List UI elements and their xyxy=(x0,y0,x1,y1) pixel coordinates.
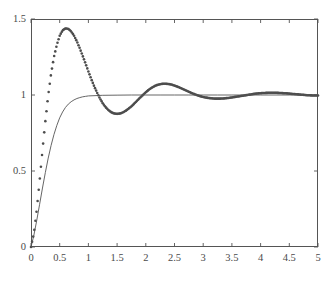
x-axis-tick-label: 4.5 xyxy=(283,253,296,264)
x-axis-tick-label: 0.5 xyxy=(53,253,66,264)
series-marker xyxy=(94,87,97,90)
series-marker xyxy=(77,44,80,47)
series-marker xyxy=(41,154,44,157)
series-marker xyxy=(317,94,320,97)
x-axis-tick-label: 5 xyxy=(315,253,320,264)
series-marker xyxy=(55,45,58,48)
series-marker xyxy=(51,67,54,70)
series-marker xyxy=(95,89,98,92)
axes-frame xyxy=(32,20,318,247)
series-marker xyxy=(80,52,83,55)
y-axis-tick-label: 0 xyxy=(21,242,26,253)
y-axis-tick-label: 1 xyxy=(21,90,26,101)
series-marker xyxy=(92,82,95,85)
series-marker xyxy=(46,100,49,103)
x-axis-tick-label: 3.5 xyxy=(225,253,238,264)
series-line-1 xyxy=(31,95,318,247)
series-marker xyxy=(36,200,39,203)
x-axis-tick-label: 3 xyxy=(201,253,206,264)
plot-canvas xyxy=(0,0,333,281)
series-marker xyxy=(50,74,53,77)
series-marker xyxy=(73,34,76,37)
series-marker xyxy=(39,177,42,180)
series-marker xyxy=(53,55,56,58)
series-marker xyxy=(78,47,81,50)
series-marker xyxy=(83,58,86,61)
series-1 xyxy=(31,95,318,247)
series-marker xyxy=(93,84,96,87)
series-marker xyxy=(45,110,48,113)
y-axis-tick-label: 1.5 xyxy=(13,14,26,25)
series-marker xyxy=(76,41,79,44)
series-marker xyxy=(40,165,43,168)
series-marker xyxy=(47,91,50,94)
x-axis-tick-label: 0 xyxy=(28,253,33,264)
x-axis-tick-label: 2 xyxy=(143,253,148,264)
series-marker xyxy=(86,67,89,70)
y-axis-tick-label: 0.5 xyxy=(13,166,26,177)
series-marker xyxy=(42,142,45,145)
series-marker xyxy=(84,61,87,64)
series-marker xyxy=(79,49,82,52)
series-marker xyxy=(43,131,46,134)
series-marker xyxy=(90,79,93,82)
chart-figure: 00.511.522.533.544.5500.511.5 xyxy=(0,0,333,281)
series-marker xyxy=(89,76,92,79)
series-marker xyxy=(74,37,77,40)
series-marker xyxy=(48,82,51,85)
series-marker xyxy=(54,50,57,53)
x-axis-tick-label: 1.5 xyxy=(111,253,124,264)
x-axis-tick-label: 1 xyxy=(86,253,91,264)
x-axis-tick-label: 2.5 xyxy=(168,253,181,264)
series-marker xyxy=(37,189,40,192)
series-marker xyxy=(96,92,99,95)
series-marker xyxy=(44,120,47,123)
series-marker xyxy=(75,39,78,42)
series-marker xyxy=(56,41,59,44)
x-axis-tick-label: 4 xyxy=(258,253,263,264)
series-marker xyxy=(57,38,60,41)
series-0 xyxy=(30,27,320,248)
series-marker xyxy=(35,210,38,213)
series-marker xyxy=(85,64,88,67)
series-marker xyxy=(52,61,55,64)
series-marker xyxy=(87,70,90,73)
series-marker xyxy=(88,73,91,76)
series-marker xyxy=(82,55,85,58)
